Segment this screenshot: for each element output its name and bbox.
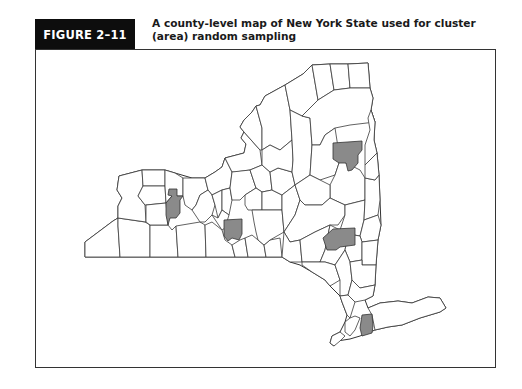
new-york-county-map [0,0,522,389]
county [348,63,370,88]
selected-county-5 [360,314,373,336]
county-group-west [85,63,446,346]
selected-county-2 [224,219,242,241]
county [368,297,446,330]
county [364,175,380,220]
county [118,218,150,257]
county [362,240,378,265]
county [302,262,340,286]
county [176,222,206,257]
county [345,316,360,336]
county [330,332,345,346]
county [290,110,312,185]
county [150,225,178,257]
county [146,203,168,225]
county [330,64,350,90]
county [142,170,165,186]
